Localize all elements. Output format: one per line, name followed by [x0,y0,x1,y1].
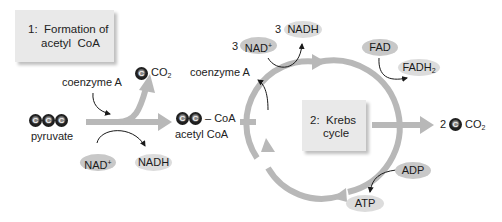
adp: ADP [395,162,431,179]
nad-to-nadh-arrow-stage1 [97,131,145,146]
acetyl-coa-label: acetyl CoA [175,128,228,140]
nadh-stage2: NADH [284,21,322,38]
carbon-atom-icon: C [29,114,42,127]
stage1-box-line2: acetyl CoA [41,36,100,50]
co2-text: CO [151,66,168,78]
nad-count-stage2: 3 [232,40,238,52]
co2-label-stage2: CO2 [465,118,485,131]
carbon-atom-icon: C [449,118,462,131]
stage2-box: 2: Krebs cycle [302,100,366,151]
fad: FAD [362,39,398,56]
stage1-flow-arrowhead [158,113,172,131]
nad-text: NAD [245,42,268,54]
stage1-box-line1: 1: Formation of [28,22,109,36]
fadh-text: FADH [402,61,431,73]
pyruvate-label: pyruvate [31,130,73,142]
co2-exit-arrowhead [420,116,434,134]
stage1-flow-arrow [86,88,160,122]
atp: ATP [346,195,384,212]
nad-plus-stage1: NAD+ [80,154,116,171]
nadh-stage1: NADH [135,154,172,171]
co2-label-stage1: CO2 [151,66,171,79]
carbon-atom-icon: C [55,114,68,127]
co2-subscript: 2 [168,72,172,79]
nad-superscript: + [108,159,112,166]
coenzyme-a-in-arrow [93,93,110,114]
coenzyme-a-out-label: coenzyme A [190,66,250,78]
fadh2: FADH2 [398,59,440,76]
co2-text: CO [465,118,482,130]
coenzyme-a-in-label: coenzyme A [62,76,122,88]
nad-superscript: + [268,42,272,49]
cycle-arrowhead-left [261,138,275,152]
nad-text: NAD [84,159,107,171]
stage1-box: 1: Formation of acetyl CoA [15,10,114,62]
fadh-subscript: 2 [432,67,436,74]
nad-plus-stage2: NAD+ [240,37,277,54]
carbon-atom-icon: C [189,112,202,125]
carbon-atom-icon: C [42,114,55,127]
co2-subscript: 2 [482,124,486,131]
stage2-box-line2: cycle [323,126,349,140]
acetyl-coa-suffix: – CoA [205,112,236,124]
stage2-box-line1: 2: Krebs [310,113,356,127]
co2-count-stage2: 2 [440,118,446,130]
carbon-atom-icon: C [135,67,148,80]
adp-to-atp-arrow [370,170,396,192]
carbon-atom-icon: C [176,112,189,125]
cycle-arrowhead-top [312,54,326,70]
nadh-count-stage2: 3 [275,23,281,35]
